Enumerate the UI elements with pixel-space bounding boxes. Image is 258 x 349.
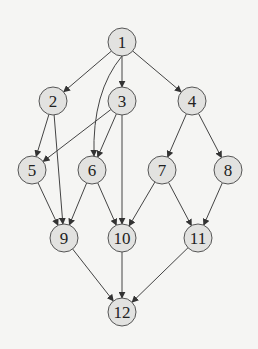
node-label: 4 <box>188 92 197 111</box>
edge-1-to-4 <box>133 51 182 92</box>
node-label: 3 <box>118 92 127 111</box>
edge-3-to-5 <box>43 110 111 162</box>
edge-5-to-9 <box>38 183 58 226</box>
node-8: 8 <box>214 156 242 184</box>
node-label: 6 <box>88 161 97 180</box>
edge-4-to-7 <box>168 114 187 157</box>
edge-8-to-11 <box>204 183 223 225</box>
edge-4-to-8 <box>198 113 221 157</box>
edge-2-to-5 <box>36 114 49 156</box>
node-label: 8 <box>224 161 233 180</box>
node-label: 7 <box>158 161 167 180</box>
node-7: 7 <box>148 156 176 184</box>
edge-3-to-6 <box>98 114 117 157</box>
node-label: 5 <box>28 161 37 180</box>
node-label: 10 <box>114 229 131 248</box>
node-2: 2 <box>39 87 67 115</box>
edge-6-to-10 <box>98 183 117 225</box>
node-3: 3 <box>108 87 136 115</box>
edge-7-to-11 <box>169 182 192 225</box>
edge-9-to-12 <box>73 249 114 301</box>
node-label: 2 <box>49 92 58 111</box>
node-11: 11 <box>184 224 212 252</box>
graph-diagram: 123456789101112 <box>0 0 258 349</box>
edge-7-to-10 <box>129 182 155 226</box>
dag-svg: 123456789101112 <box>0 0 258 349</box>
node-1: 1 <box>108 28 136 56</box>
node-4: 4 <box>178 87 206 115</box>
node-10: 10 <box>108 224 136 252</box>
node-5: 5 <box>18 156 46 184</box>
edge-6-to-9 <box>69 183 86 225</box>
node-label: 12 <box>114 303 131 322</box>
node-12: 12 <box>108 298 136 326</box>
node-label: 9 <box>60 229 69 248</box>
edge-11-to-12 <box>132 248 188 302</box>
node-label: 1 <box>118 33 127 52</box>
node-9: 9 <box>50 224 78 252</box>
edge-2-to-9 <box>54 115 63 224</box>
node-label: 11 <box>190 229 206 248</box>
nodes-layer: 123456789101112 <box>18 28 242 326</box>
node-6: 6 <box>78 156 106 184</box>
